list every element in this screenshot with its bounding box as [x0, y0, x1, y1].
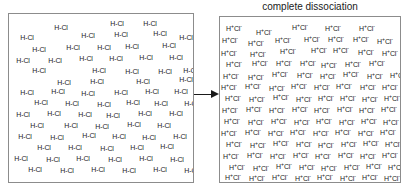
hcl-molecule-label: H-Cl [47, 110, 61, 118]
hcl-ion-pair-label: H+Cl- [380, 129, 396, 137]
hcl-molecule-label: H-Cl [109, 55, 123, 63]
hcl-molecule-label: H-Cl [32, 46, 46, 54]
hcl-molecule-label: H-Cl [82, 132, 96, 140]
hcl-ion-pair-label: H+Cl- [272, 71, 288, 79]
hcl-ion-pair-label: H+Cl- [341, 141, 357, 149]
hcl-molecule-label: H-Cl [106, 112, 120, 120]
hcl-molecule-label: H-Cl [28, 166, 42, 174]
hcl-molecule-label: H-Cl [173, 133, 187, 141]
hcl-ion-pair-label: H+Cl- [377, 38, 393, 46]
hcl-molecule-label: H-Cl [92, 67, 106, 75]
hcl-ion-pair-label: H+Cl- [222, 37, 238, 45]
hcl-molecule-label: H-Cl [95, 123, 109, 131]
hcl-molecule-label: H-Cl [142, 134, 156, 142]
hcl-ion-pair-label: H+Cl- [358, 49, 374, 57]
hcl-ion-pair-label: H+Cl- [252, 60, 268, 68]
hcl-ion-pair-label: H+Cl- [363, 140, 379, 148]
hcl-ion-pair-label: H+Cl- [362, 174, 378, 182]
hcl-ion-pair-label: H+Cl- [295, 175, 311, 183]
hcl-molecule-label: H-Cl [114, 89, 128, 97]
hcl-molecule-label: H-Cl [16, 111, 30, 119]
hcl-molecule-label: H-Cl [110, 20, 124, 28]
hcl-ion-pair-label: H+Cl- [335, 129, 351, 137]
hcl-molecule-label: H-Cl [126, 99, 140, 107]
hcl-molecule-label: H-Cl [60, 167, 74, 175]
hcl-molecule-label: H-Cl [97, 44, 111, 52]
hcl-ion-pair-label: H+Cl- [318, 142, 334, 150]
hcl-ion-pair-label: H+Cl- [245, 83, 261, 91]
hcl-molecule-label: H-Cl [130, 144, 144, 152]
hcl-ion-pair-label: H+Cl- [275, 37, 291, 45]
hcl-ion-pair-label: H+Cl- [311, 47, 327, 55]
hcl-ion-pair-label: H+Cl- [359, 107, 375, 115]
hcl-ion-pair-label: H+Cl- [249, 175, 265, 183]
hcl-molecule-label: H-Cl [65, 100, 79, 108]
hcl-molecule-label: H-Cl [51, 88, 65, 96]
hcl-molecule-label: H-Cl [50, 134, 64, 142]
hcl-ion-pair-label: H+Cl- [276, 163, 292, 171]
hcl-ion-pair-label: H+Cl- [321, 62, 337, 70]
hcl-molecule-label: H-Cl [91, 166, 105, 174]
hcl-ion-pair-label: H+Cl- [313, 130, 329, 138]
hcl-ion-pair-label: H+Cl- [366, 163, 382, 171]
dissociated-ions-panel: H+Cl-H+Cl-H+Cl-H+Cl-H+Cl-H+Cl-H+Cl-H+Cl-… [219, 16, 401, 183]
hcl-ion-pair-label: H+Cl- [314, 84, 330, 92]
hcl-molecule-label: H-Cl [112, 133, 126, 141]
hcl-ion-pair-label: H+Cl- [268, 130, 284, 138]
right-arrow-icon [194, 88, 219, 102]
hcl-ion-pair-label: H+Cl- [382, 84, 398, 92]
hcl-ion-pair-label: H+Cl- [280, 48, 296, 56]
hcl-ion-pair-label: H+Cl- [369, 60, 385, 68]
hcl-ion-pair-label: H+Cl- [256, 29, 272, 37]
hcl-molecule-label: H-Cl [122, 167, 136, 175]
hcl-ion-pair-label: H+Cl- [299, 164, 315, 172]
undissociated-molecules-panel: H-ClH-ClH-ClH-ClH-ClH-ClH-ClH-ClH-ClH-Cl… [8, 13, 194, 183]
hcl-ion-pair-label: H+Cl- [269, 85, 285, 93]
hcl-molecule-label: H-Cl [153, 166, 167, 174]
hcl-ion-pair-label: H+Cl- [367, 73, 383, 81]
hcl-molecule-label: H-Cl [37, 144, 51, 152]
hcl-ion-pair-label: H+Cl- [246, 106, 262, 114]
hcl-ion-pair-label: H+Cl- [320, 73, 336, 81]
hcl-molecule-label: H-Cl [114, 31, 128, 39]
figure-caption: complete dissociation [219, 0, 401, 13]
arrow-head [211, 90, 219, 98]
hcl-molecule-label: H-Cl [48, 57, 62, 65]
hcl-ion-pair-label: H+Cl- [361, 118, 377, 126]
hcl-molecule-label: H-Cl [97, 101, 111, 109]
hcl-molecule-label: H-Cl [81, 32, 95, 40]
hcl-ion-pair-label: H+Cl- [337, 106, 353, 114]
hcl-molecule-label: H-Cl [81, 90, 95, 98]
hcl-ion-pair-label: H+Cl- [226, 25, 242, 33]
hcl-ion-pair-label: H+Cl- [291, 83, 307, 91]
hcl-molecule-label: H-Cl [30, 122, 44, 130]
hcl-ion-pair-label: H+Cl- [292, 24, 308, 32]
hcl-molecule-label: H-Cl [170, 156, 184, 164]
hcl-ion-pair-label: H+Cl- [245, 129, 261, 137]
hcl-ion-pair-label: H+Cl- [222, 107, 238, 115]
hcl-ion-pair-label: H+Cl- [221, 130, 237, 138]
hcl-ion-pair-label: H+Cl- [314, 107, 330, 115]
hcl-molecule-label: H-Cl [184, 167, 194, 175]
hcl-molecule-label: H-Cl [183, 67, 194, 75]
hcl-molecule-label: H-Cl [76, 155, 90, 163]
hcl-ion-pair-label: H+Cl- [224, 118, 240, 126]
hcl-molecule-label: H-Cl [57, 79, 71, 87]
hcl-ion-pair-label: H+Cl- [248, 40, 264, 48]
hcl-molecule-label: H-Cl [66, 44, 80, 52]
hcl-ion-pair-label: H+Cl- [290, 129, 306, 137]
hcl-ion-pair-label: H+Cl- [385, 141, 401, 149]
hcl-ion-pair-label: H+Cl- [221, 84, 237, 92]
hcl-ion-pair-label: H+Cl- [358, 130, 374, 138]
hcl-molecule-label: H-Cl [139, 155, 153, 163]
hcl-molecule-label: H-Cl [68, 144, 82, 152]
hcl-ion-pair-label: H+Cl- [338, 152, 354, 160]
hcl-ion-pair-label: H+Cl- [353, 36, 369, 44]
hcl-molecule-label: H-Cl [154, 100, 168, 108]
hcl-molecule-label: H-Cl [79, 55, 93, 63]
hcl-molecule-label: H-Cl [160, 143, 174, 151]
hcl-molecule-label: H-Cl [100, 145, 114, 153]
hcl-ion-pair-label: H+Cl- [292, 106, 308, 114]
hcl-ion-pair-label: H+Cl- [360, 84, 376, 92]
hcl-molecule-label: H-Cl [14, 155, 28, 163]
